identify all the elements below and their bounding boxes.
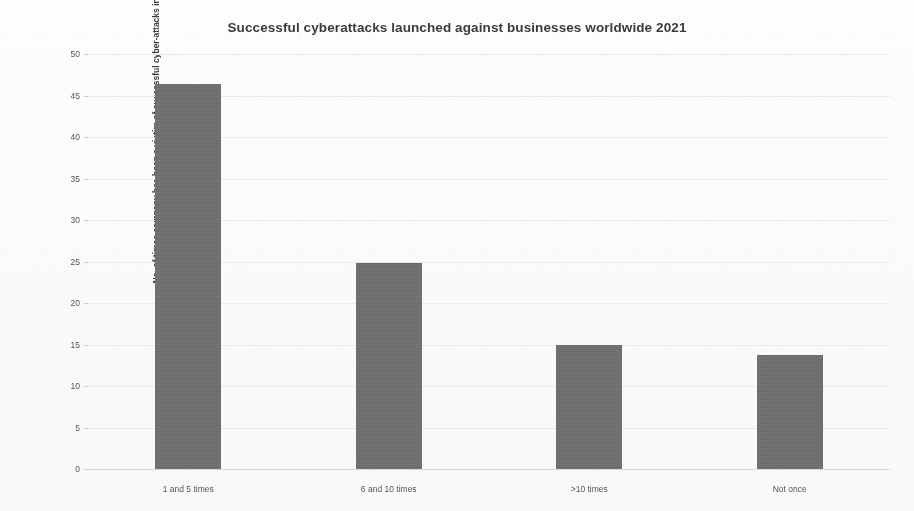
y-axis-tick-label: 50 [46, 49, 80, 59]
bar [556, 345, 622, 469]
chart-title: Successful cyberattacks launched against… [0, 20, 914, 35]
x-axis-tick-label: >10 times [571, 484, 608, 494]
y-axis-tick-mark [84, 96, 88, 97]
x-axis-tick-label: Not once [773, 484, 807, 494]
x-axis-baseline [88, 469, 890, 470]
bar [356, 263, 422, 469]
y-axis-tick-label: 40 [46, 132, 80, 142]
y-axis-tick-labels: 05101520253035404550 [44, 54, 80, 469]
y-axis-tick-label: 5 [46, 423, 80, 433]
y-axis-tick-mark [84, 137, 88, 138]
y-axis-tick-mark [84, 303, 88, 304]
plot-area [88, 54, 890, 469]
gridline [88, 54, 890, 55]
y-axis-tick-mark [84, 54, 88, 55]
x-axis-tick-label: 1 and 5 times [163, 484, 214, 494]
y-axis-tick-label: 10 [46, 381, 80, 391]
y-axis-tick-label: 15 [46, 340, 80, 350]
x-axis-tick-label: 6 and 10 times [361, 484, 417, 494]
y-axis-tick-label: 20 [46, 298, 80, 308]
y-axis-tick-label: 35 [46, 174, 80, 184]
y-axis-tick-mark [84, 179, 88, 180]
y-axis-tick-label: 45 [46, 91, 80, 101]
y-axis-tick-label: 25 [46, 257, 80, 267]
y-axis-tick-label: 0 [46, 464, 80, 474]
y-axis-tick-mark [84, 386, 88, 387]
y-axis-tick-label: 30 [46, 215, 80, 225]
y-axis-tick-mark [84, 428, 88, 429]
bar [155, 84, 221, 469]
bar [757, 355, 823, 469]
chart-page: Successful cyberattacks launched against… [0, 0, 914, 511]
y-axis-tick-mark [84, 220, 88, 221]
y-axis-tick-mark [84, 345, 88, 346]
y-axis-tick-mark [84, 469, 88, 470]
y-axis-tick-mark [84, 262, 88, 263]
